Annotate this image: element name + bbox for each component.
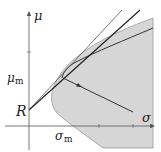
y-axis-label: μ [34, 8, 42, 23]
svg-text:μ: μ [7, 71, 15, 85]
svg-text:m: m [15, 76, 24, 86]
sigma-m-label: σ m [55, 129, 73, 144]
x-axis-label: σ [142, 110, 152, 125]
mean-variance-diagram: μ σ R μ m σ m [0, 0, 161, 152]
svg-text:m: m [64, 134, 73, 144]
feasible-region [52, 18, 153, 148]
mu-m-label: μ m [7, 71, 24, 86]
intercept-label-r: R [15, 103, 27, 119]
svg-text:σ: σ [55, 129, 64, 143]
